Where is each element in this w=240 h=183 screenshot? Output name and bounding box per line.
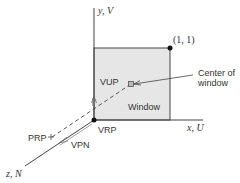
- z-axis-label: z, N: [5, 168, 23, 179]
- window-center-marker-icon: [129, 82, 134, 87]
- corner-point-icon: [168, 46, 173, 51]
- vpn-label: VPN: [71, 140, 90, 150]
- vup-label: VUP: [100, 77, 119, 87]
- vrp-label: VRP: [98, 125, 117, 135]
- vrp-point-icon: [92, 118, 97, 123]
- viewing-diagram: y, V x, U z, N (1, 1) Window Center of w…: [0, 0, 240, 183]
- center-label-line2: window: [197, 78, 229, 88]
- prp-marker-icon: [48, 134, 54, 140]
- center-label-line1: Center of: [198, 68, 236, 78]
- y-axis-label: y, V: [97, 5, 115, 16]
- prp-label: PRP: [28, 133, 47, 143]
- window-label: Window: [128, 102, 161, 112]
- corner-label: (1, 1): [173, 34, 195, 46]
- x-axis-label: x, U: [186, 122, 204, 133]
